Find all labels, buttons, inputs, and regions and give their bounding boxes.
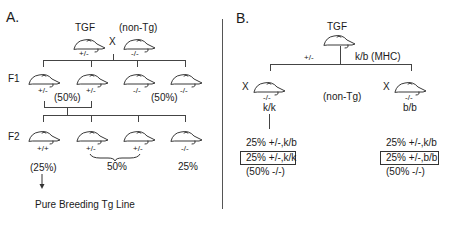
mouse-icon-f1-4 [169, 72, 205, 88]
f2-percent-heterozygous: 50% [107, 162, 127, 172]
f2-genotype-4: -/- [181, 145, 189, 153]
mouse-icon-f1-1 [27, 72, 63, 88]
b-right-mhc: b/b [403, 103, 417, 113]
mouse-icon-f1-2 [75, 72, 111, 88]
mouse-icon-b-right-mate [393, 80, 429, 96]
pure-line-arrowhead-icon [40, 184, 45, 189]
panel-a-label: A. [6, 10, 19, 24]
f1-genotype-1: +/- [38, 87, 48, 95]
mouse-icon-b-parent-tgf [322, 33, 358, 49]
panel-b-label: B. [236, 11, 249, 25]
b-drop-left [270, 64, 271, 71]
f1-genotype-3: -/- [133, 87, 141, 95]
b-parent-genotype: +/- [304, 54, 314, 62]
f1-genotype-2: +/- [86, 87, 96, 95]
b-right-outcome-1: 25% +/-,k/b [386, 138, 437, 148]
parent-cross-symbol: X [109, 37, 116, 47]
parent-tgf-label: TGF [75, 23, 95, 33]
b-left-outcome-2: 25% +/-,k/k [246, 153, 296, 163]
f2-row-label: F2 [8, 132, 20, 142]
f1-percent-left: (50%) [54, 93, 81, 103]
pure-breeding-label: Pure Breeding Tg Line [35, 200, 135, 210]
f1-genotype-4: -/- [180, 87, 188, 95]
b-right-outcome-2: 25% +/-,b/b [386, 153, 437, 163]
mouse-icon-f2-1 [27, 129, 63, 145]
b-parent-mhc: k/b (MHC) [355, 52, 401, 62]
f1-percent-right: (50%) [151, 93, 178, 103]
mouse-icon-parent-nontg [122, 37, 158, 53]
f2-genotype-3: +/- [133, 145, 143, 153]
f1-row-label: F1 [8, 74, 20, 84]
f2-genotype-2: +/- [86, 145, 96, 153]
mouse-icon-f1-3 [122, 72, 158, 88]
f2-genotype-1: +/+ [37, 145, 49, 153]
b-left-mhc: k/k [263, 103, 276, 113]
b-left-outcome-1: 25% +/-,k/b [246, 138, 297, 148]
mouse-icon-f2-2 [75, 129, 111, 145]
parent-nontg-label: (non-Tg) [119, 23, 157, 33]
f2-percent-homozygous: (25%) [30, 163, 57, 173]
f2-percent-null: 25% [178, 162, 198, 172]
mouse-icon-b-left-mate [252, 80, 288, 96]
b-branch-line [270, 64, 411, 65]
mouse-icon-parent-tgf [72, 37, 108, 53]
b-left-progeny-stem [269, 114, 270, 129]
b-cross-nontg-label: (non-Tg) [323, 92, 361, 102]
heterozygote-brace [90, 154, 140, 161]
connector-overlay [0, 0, 449, 226]
mouse-icon-f2-3 [122, 129, 158, 145]
b-drop-right [411, 64, 412, 71]
b-parent-tgf-label: TGF [327, 22, 347, 32]
b-left-outcome-3: (50% -/-) [246, 167, 285, 177]
b-right-cross-symbol: X [383, 82, 390, 92]
b-left-cross-symbol: X [242, 82, 249, 92]
mouse-icon-f2-4 [169, 129, 205, 145]
b-right-outcome-3: (50% -/-) [386, 167, 425, 177]
